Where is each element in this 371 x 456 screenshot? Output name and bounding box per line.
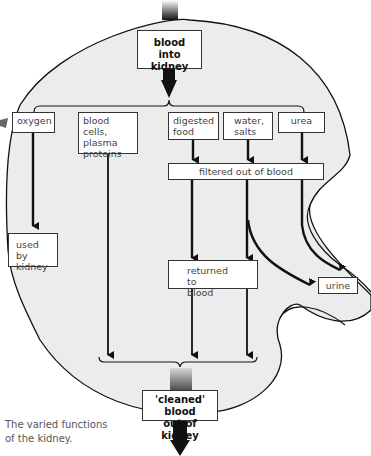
top-box-line1: blood bbox=[142, 37, 197, 49]
figure-caption: The varied functions of the kidney. bbox=[5, 418, 107, 446]
urea-box: urea bbox=[278, 112, 325, 133]
urine-box: urine bbox=[318, 277, 358, 294]
blood-cells-box: blood cells, plasma proteins bbox=[78, 112, 138, 154]
water-line2: salts bbox=[234, 126, 268, 137]
digested-food-box: digested food bbox=[168, 112, 219, 140]
water-salts-box: water, salts bbox=[223, 112, 273, 140]
oxygen-box: oxygen bbox=[12, 112, 55, 133]
bottom-box-line2: out of kidney bbox=[147, 418, 213, 442]
inflow-gradient bbox=[162, 0, 178, 20]
caption-line2: of the kidney. bbox=[5, 432, 107, 446]
blood-cells-line1: blood cells, bbox=[83, 115, 133, 137]
returned-to-blood-box: returned to blood bbox=[168, 260, 258, 289]
urea-label: urea bbox=[291, 115, 312, 126]
top-box-line2: into kidney bbox=[142, 49, 197, 73]
urine-label: urine bbox=[326, 280, 350, 291]
blood-cells-line3: proteins bbox=[83, 148, 133, 159]
filtered-out-box: filtered out of blood bbox=[168, 163, 324, 180]
vessel-stub bbox=[0, 118, 8, 128]
filtered-label: filtered out of blood bbox=[199, 166, 293, 177]
used-line1: used by bbox=[16, 239, 50, 261]
food-line2: food bbox=[173, 126, 214, 137]
returned-line2: blood bbox=[187, 287, 239, 298]
used-line2: kidney bbox=[16, 261, 50, 272]
cleaned-blood-out-box: 'cleaned' blood out of kidney bbox=[142, 390, 218, 421]
water-line1: water, bbox=[234, 115, 268, 126]
food-line1: digested bbox=[173, 115, 214, 126]
blood-into-kidney-box: blood into kidney bbox=[137, 30, 202, 69]
used-by-kidney-box: used by kidney bbox=[8, 233, 58, 267]
blood-cells-line2: plasma bbox=[83, 137, 133, 148]
outflow-arrowhead bbox=[170, 440, 190, 456]
oxygen-label: oxygen bbox=[17, 115, 52, 126]
returned-line1: returned to bbox=[187, 265, 239, 287]
caption-line1: The varied functions bbox=[5, 418, 107, 432]
bottom-box-line1: 'cleaned' blood bbox=[147, 394, 213, 418]
kidney-outline bbox=[6, 19, 371, 413]
